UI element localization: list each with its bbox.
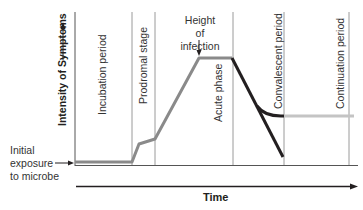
time-arrow-icon (350, 184, 358, 190)
peak-annotation-line2: infection (180, 40, 220, 53)
stage-label-incubation: Incubation period (96, 34, 108, 115)
stage-label-prodromal: Prodromal stage (137, 27, 149, 104)
exposure-annotation-line1: Initial (10, 144, 59, 157)
y-axis-label: Intensity of Symptoms (56, 13, 68, 126)
peak-annotation: Height of infection (180, 14, 220, 53)
stage-dividers (132, 12, 349, 165)
exposure-annotation: Initial exposure to microbe (10, 144, 59, 183)
exposure-annotation-line2: exposure (10, 157, 59, 170)
stage-label-acute: Acute phase (212, 64, 224, 122)
x-axis-label: Time (203, 191, 228, 203)
exposure-arrow-icon (68, 161, 74, 166)
stage-label-continuation: Continuation period (334, 18, 346, 109)
peak-annotation-line1: Height of (180, 14, 220, 40)
stage-label-convalescent: Convalescent period (272, 13, 284, 109)
exposure-annotation-line3: to microbe (10, 170, 59, 183)
course-of-infection-diagram: Intensity of Symptoms Incubation period … (0, 0, 363, 210)
